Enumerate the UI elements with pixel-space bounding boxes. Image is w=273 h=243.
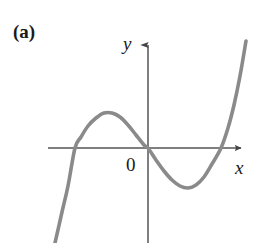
cubic-curve	[55, 41, 246, 243]
cubic-curve-group	[55, 41, 246, 243]
graph-canvas	[0, 0, 273, 243]
y-axis-label: y	[123, 34, 131, 53]
x-axis-label: x	[235, 158, 243, 177]
panel-label: (a)	[13, 22, 35, 41]
origin-label: 0	[126, 155, 136, 174]
figure-panel: (a) y x 0	[0, 0, 273, 243]
